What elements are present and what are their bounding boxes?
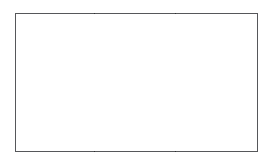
left-panel[interactable] — [16, 14, 94, 151]
right-panel[interactable] — [175, 14, 257, 151]
three-panel-frame — [15, 13, 258, 152]
middle-panel[interactable] — [94, 14, 175, 151]
figure-canvas — [0, 0, 271, 161]
